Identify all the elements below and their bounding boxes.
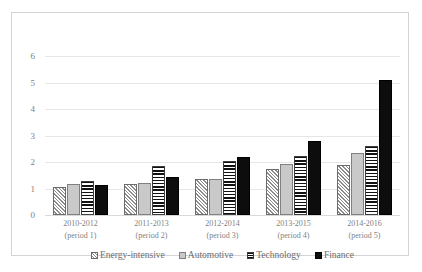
bar-energy-intensive-5 xyxy=(337,165,350,215)
bar-finance-4 xyxy=(308,141,321,215)
x-axis-category-years: 2012-2014 xyxy=(205,219,240,228)
y-axis-tick-label: 5 xyxy=(31,78,36,87)
legend-label: Energy-intensive xyxy=(100,250,165,260)
x-axis-category-label: 2011-2013(period 2) xyxy=(116,218,187,241)
legend-item-technology[interactable]: Technology xyxy=(247,250,301,260)
bar-finance-1 xyxy=(95,185,108,215)
bar-automotive-4 xyxy=(280,164,293,215)
bar-technology-4 xyxy=(294,156,307,215)
legend-item-finance[interactable]: Finance xyxy=(315,250,354,260)
bar-automotive-2 xyxy=(138,183,151,215)
bar-technology-3 xyxy=(223,161,236,215)
bar-finance-2 xyxy=(166,177,179,215)
x-axis-category-years: 2014-2016 xyxy=(347,219,382,228)
x-axis-category-years: 2011-2013 xyxy=(134,219,168,228)
legend-swatch-energy-intensive-icon xyxy=(91,252,98,259)
y-axis-tick-label: 1 xyxy=(31,184,36,193)
legend-label: Finance xyxy=(324,250,354,260)
bar-technology-1 xyxy=(81,181,94,215)
legend-item-energy-intensive[interactable]: Energy-intensive xyxy=(91,250,165,260)
legend-label: Technology xyxy=(256,250,301,260)
bars-layer xyxy=(45,56,400,215)
bar-technology-2 xyxy=(152,166,165,215)
bar-automotive-1 xyxy=(67,184,80,215)
x-axis-category-label: 2010-2012(period 1) xyxy=(45,218,116,241)
legend-swatch-technology-icon xyxy=(247,252,254,259)
bar-energy-intensive-2 xyxy=(124,184,137,215)
x-axis-category-period: (period 3) xyxy=(187,230,258,242)
x-axis-category-label: 2012-2014(period 3) xyxy=(187,218,258,241)
bar-technology-5 xyxy=(365,146,378,215)
chart-frame: 0123456 2010-2012(period 1)2011-2013(per… xyxy=(11,12,409,256)
x-axis-category-period: (period 2) xyxy=(116,230,187,242)
y-axis-tick-label: 6 xyxy=(31,52,36,61)
bar-finance-3 xyxy=(237,157,250,215)
bar-automotive-5 xyxy=(351,153,364,215)
y-axis-tick-label: 3 xyxy=(31,131,36,140)
x-axis-category-period: (period 5) xyxy=(329,230,400,242)
x-axis-category-label: 2013-2015(period 4) xyxy=(258,218,329,241)
legend-swatch-automotive-icon xyxy=(179,252,186,259)
x-axis-category-years: 2013-2015 xyxy=(276,219,311,228)
legend-swatch-finance-icon xyxy=(315,252,322,259)
chart-legend: Energy-intensiveAutomotiveTechnologyFina… xyxy=(45,247,400,263)
gridline-0 xyxy=(45,215,400,216)
bar-energy-intensive-1 xyxy=(53,187,66,215)
bar-automotive-3 xyxy=(209,179,222,215)
y-axis-tick-label: 2 xyxy=(31,158,36,167)
bar-energy-intensive-3 xyxy=(195,179,208,215)
legend-item-automotive[interactable]: Automotive xyxy=(179,250,233,260)
y-axis: 0123456 xyxy=(12,56,40,215)
x-axis: 2010-2012(period 1)2011-2013(period 2)20… xyxy=(45,218,400,246)
y-axis-tick-label: 0 xyxy=(31,211,36,220)
bar-energy-intensive-4 xyxy=(266,169,279,215)
x-axis-category-years: 2010-2012 xyxy=(63,219,98,228)
bar-finance-5 xyxy=(379,80,392,215)
legend-label: Automotive xyxy=(188,250,233,260)
x-axis-category-label: 2014-2016(period 5) xyxy=(329,218,400,241)
x-axis-category-period: (period 1) xyxy=(45,230,116,242)
y-axis-tick-label: 4 xyxy=(31,105,36,114)
x-axis-category-period: (period 4) xyxy=(258,230,329,242)
